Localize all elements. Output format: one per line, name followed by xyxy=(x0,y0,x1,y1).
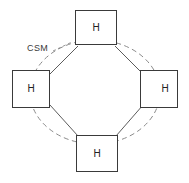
node-label-top: H xyxy=(92,23,99,33)
node-label-left: H xyxy=(27,84,34,94)
node-label-right: H xyxy=(161,84,168,94)
csm-annotation-label: CSM xyxy=(27,43,48,53)
node-box-top[interactable]: H xyxy=(75,10,117,45)
node-box-right[interactable]: H xyxy=(140,70,178,108)
node-label-bottom: H xyxy=(93,149,100,159)
link-top-to-right xyxy=(115,46,143,74)
diagram-canvas: H H H H CSM xyxy=(0,0,189,183)
link-bottom-to-left xyxy=(50,105,78,136)
node-box-bottom[interactable]: H xyxy=(76,135,118,172)
node-box-left[interactable]: H xyxy=(12,70,50,108)
link-right-to-bottom xyxy=(116,105,143,136)
